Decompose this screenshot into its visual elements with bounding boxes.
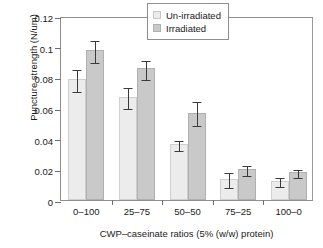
chart-figure: Puncture strength (N/um) 00.020.040.060.… [0, 0, 323, 248]
error-bar-cap-lower [73, 92, 82, 93]
x-axis-tick [162, 200, 163, 205]
error-bar-line [77, 70, 78, 93]
error-bar-cap-upper [293, 170, 302, 171]
y-axis-tick [55, 48, 61, 49]
error-bar-cap-lower [174, 151, 183, 152]
y-axis-tick [55, 171, 61, 172]
plot-area: 00.020.040.060.080.10.120–10025–7550–507… [60, 17, 313, 201]
error-bar-line [229, 173, 230, 188]
legend-item-un-irradiated: Un-irradiated [153, 9, 221, 21]
legend-swatch-un-irradiated-icon [153, 11, 161, 19]
error-bar-cap-lower [192, 126, 201, 127]
x-axis-title: CWP–caseinate ratios (5% (w/w) protein) [60, 228, 313, 239]
chart-legend: Un-irradiated Irradiated [147, 3, 229, 40]
error-bar-cap-lower [293, 178, 302, 179]
x-axis-tick [112, 200, 113, 205]
error-bar-cap-lower [275, 187, 284, 188]
legend-label-un-irradiated: Un-irradiated [166, 10, 221, 21]
error-bar-line [146, 61, 147, 80]
error-bar-cap-upper [243, 166, 252, 167]
error-bar-cap-upper [225, 173, 234, 174]
error-bar-cap-upper [174, 141, 183, 142]
error-bar-cap-upper [73, 70, 82, 71]
y-axis-tick [55, 18, 61, 19]
bar-un-irradiated [119, 97, 137, 201]
error-bar-line [247, 166, 248, 176]
error-bar-cap-lower [141, 80, 150, 81]
error-bar-cap-upper [91, 41, 100, 42]
y-axis-tick-label: 0.06 [35, 105, 54, 116]
y-axis-tick-label: 0.12 [35, 13, 54, 24]
bar-irradiated [137, 68, 155, 200]
bar-un-irradiated [170, 144, 188, 200]
legend-label-irradiated: Irradiated [166, 23, 206, 34]
x-axis-tick-label: 75–25 [225, 206, 251, 217]
bar-irradiated [86, 50, 104, 200]
plot-inner [61, 18, 312, 200]
error-bar-cap-upper [275, 178, 284, 179]
x-axis-tick-label: 0–100 [73, 206, 99, 217]
bar-un-irradiated [68, 79, 86, 200]
y-axis-tick [55, 140, 61, 141]
y-axis-tick [55, 202, 61, 203]
error-bar-cap-upper [192, 102, 201, 103]
error-bar-cap-lower [225, 188, 234, 189]
y-axis-tick-label: 0.1 [40, 43, 53, 54]
y-axis-tick-label: 0.08 [35, 74, 54, 85]
x-axis-tick [213, 200, 214, 205]
error-bar-line [280, 178, 281, 187]
error-bar-cap-upper [141, 61, 150, 62]
y-axis-tick-label: 0.02 [35, 166, 54, 177]
x-axis-tick-label: 50–50 [174, 206, 200, 217]
error-bar-cap-lower [243, 176, 252, 177]
y-axis-tick-label: 0 [48, 197, 53, 208]
error-bar-cap-upper [123, 88, 132, 89]
error-bar-cap-lower [91, 63, 100, 64]
error-bar-line [179, 141, 180, 151]
y-axis-tick [55, 79, 61, 80]
error-bar-line [298, 170, 299, 178]
x-axis-tick-label: 100–0 [275, 206, 301, 217]
legend-swatch-irradiated-icon [153, 24, 161, 32]
x-axis-tick-label: 25–75 [124, 206, 150, 217]
y-axis-tick-label: 0.04 [35, 135, 54, 146]
error-bar-cap-lower [123, 109, 132, 110]
error-bar-line [95, 41, 96, 62]
x-axis-tick [263, 200, 264, 205]
y-axis-tick [55, 110, 61, 111]
legend-item-irradiated: Irradiated [153, 22, 221, 34]
error-bar-line [128, 88, 129, 109]
error-bar-line [197, 102, 198, 126]
